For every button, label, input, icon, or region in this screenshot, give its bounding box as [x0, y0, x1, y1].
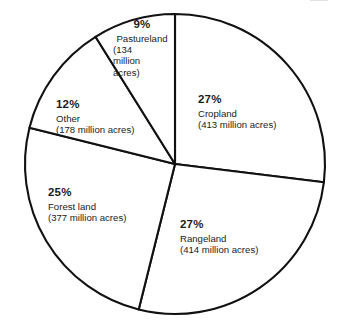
pie-label-pastureland-percent: 9% [109, 18, 175, 32]
pie-label-cropland-acres: (413 million acres) [198, 119, 308, 130]
pie-label-forest-land: 25% Forest land (377 million acres) [48, 186, 168, 223]
pie-label-rangeland-name: Rangeland [180, 233, 300, 244]
pie-label-pastureland-acres-line1: (134 [113, 44, 175, 55]
pie-label-forest-land-acres: (377 million acres) [48, 212, 168, 223]
pie-label-pastureland-acres-line2: million [113, 55, 175, 66]
pie-label-other-acres: (178 million acres) [56, 124, 168, 135]
pie-label-cropland-percent: 27% [198, 93, 308, 107]
pie-label-cropland: 27% Cropland (413 million acres) [198, 93, 308, 130]
pie-label-other-name: Other [56, 113, 168, 124]
pie-label-other-percent: 12% [56, 98, 168, 112]
pie-chart: 9% Pastureland (134 million acres) 27% C… [0, 0, 348, 325]
pie-label-other: 12% Other (178 million acres) [56, 98, 168, 135]
pie-label-forest-land-percent: 25% [48, 186, 168, 200]
pie-label-pastureland-name: Pastureland [109, 33, 175, 44]
pie-slices [25, 14, 325, 314]
pie-label-pastureland: 9% Pastureland (134 million acres) [113, 18, 175, 78]
pie-label-rangeland-percent: 27% [180, 218, 300, 232]
pie-label-forest-land-name: Forest land [48, 201, 168, 212]
pie-label-cropland-name: Cropland [198, 108, 308, 119]
pie-label-rangeland: 27% Rangeland (414 million acres) [180, 218, 300, 255]
pie-label-rangeland-acres: (414 million acres) [180, 244, 300, 255]
pie-label-pastureland-acres-line3: acres) [113, 67, 175, 78]
